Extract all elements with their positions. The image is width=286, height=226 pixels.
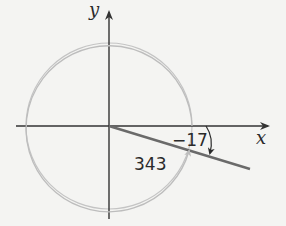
y-axis-label: y <box>88 0 100 20</box>
positive-angle-label: 343 <box>134 154 166 174</box>
angle-diagram: y x −17 343 <box>0 0 286 226</box>
negative-angle-label: −17 <box>172 130 208 150</box>
x-axis-label: x <box>256 127 266 148</box>
